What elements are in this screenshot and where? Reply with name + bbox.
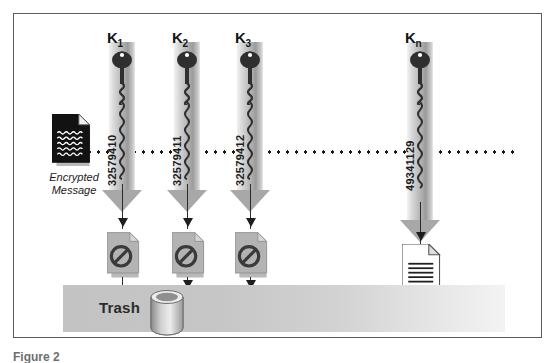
fail-document-2 bbox=[172, 232, 208, 278]
encrypted-message-document bbox=[52, 114, 94, 166]
key-icon-n bbox=[409, 49, 431, 105]
key-label-3-subscript: 3 bbox=[246, 38, 251, 49]
encrypted-message-caption: Encrypted Message bbox=[34, 171, 114, 197]
key-connector-arrowhead-1 bbox=[118, 218, 128, 227]
fail-document-1 bbox=[107, 232, 143, 278]
key-stem-squiggle-1 bbox=[111, 102, 133, 187]
key-label-1: K1 bbox=[107, 29, 123, 49]
success-connector-arrowhead-n bbox=[416, 232, 426, 241]
key-connector-arrowhead-3 bbox=[246, 218, 256, 227]
figure-frame: K1 32579410 K2 32579411 bbox=[13, 13, 542, 338]
key-label-1-subscript: 1 bbox=[118, 38, 123, 49]
key-label-3-letter: K bbox=[235, 29, 246, 46]
trash-label: Trash bbox=[99, 299, 140, 316]
key-stem-squiggle-3 bbox=[239, 102, 261, 187]
key-label-n-subscript: n bbox=[416, 38, 422, 49]
key-connector-arrowhead-2 bbox=[183, 218, 193, 227]
key-label-n: Kn bbox=[405, 29, 421, 49]
figure-caption: Figure 2 bbox=[13, 350, 60, 363]
trash-bar: Trash bbox=[63, 285, 505, 332]
key-icon-2 bbox=[176, 49, 198, 105]
trash-can-icon bbox=[150, 290, 184, 336]
key-label-n-letter: K bbox=[405, 29, 416, 46]
key-label-2-letter: K bbox=[172, 29, 183, 46]
key-label-2: K2 bbox=[172, 29, 188, 49]
key-icon-1 bbox=[111, 49, 133, 105]
key-stem-squiggle-n bbox=[409, 102, 431, 192]
key-icon-3 bbox=[239, 49, 261, 105]
key-label-1-letter: K bbox=[107, 29, 118, 46]
key-label-3: K3 bbox=[235, 29, 251, 49]
fail-document-3 bbox=[235, 232, 271, 278]
key-label-2-subscript: 2 bbox=[183, 38, 188, 49]
key-stem-squiggle-2 bbox=[176, 102, 198, 187]
encrypted-broadcast-dotted-line bbox=[76, 150, 516, 154]
